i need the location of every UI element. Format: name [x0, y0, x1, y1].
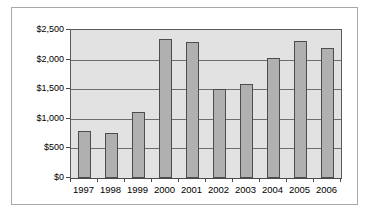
x-axis-tickmark	[232, 178, 233, 182]
bar	[78, 131, 91, 178]
x-axis-tickmark	[286, 178, 287, 182]
bar	[213, 89, 226, 178]
x-axis-tick-label: 2006	[313, 184, 340, 196]
y-axis-tick-label: $1,000	[36, 114, 64, 123]
x-axis-tickmark	[70, 178, 71, 182]
x-axis-tickmark	[259, 178, 260, 182]
bar	[294, 41, 307, 178]
x-axis-tickmark	[97, 178, 98, 182]
y-axis-tick-label: $2,000	[36, 55, 64, 64]
y-axis-tick-label: $1,500	[36, 84, 64, 93]
x-axis-tick-label: 2004	[259, 184, 286, 196]
x-axis-tick-label: 2005	[286, 184, 313, 196]
x-axis-tick-label: 2001	[178, 184, 205, 196]
bar	[132, 112, 145, 178]
x-axis-tickmarks	[70, 178, 342, 183]
y-axis-tick-labels: $0$500$1,000$1,500$2,000$2,500	[12, 29, 64, 179]
bar	[186, 42, 199, 178]
plot-area	[70, 29, 342, 179]
bar	[159, 39, 172, 178]
y-axis-tick-label: $2,500	[36, 25, 64, 34]
bar	[105, 133, 118, 178]
bar	[321, 48, 334, 178]
chart-figure: $0$500$1,000$1,500$2,000$2,500 199719981…	[11, 7, 358, 205]
x-axis-tickmark	[313, 178, 314, 182]
x-axis-tick-label: 2003	[232, 184, 259, 196]
y-axis-tick-label: $500	[44, 143, 64, 152]
bar	[240, 84, 253, 178]
y-axis-tick-label: $0	[54, 173, 64, 182]
x-axis-tick-labels: 1997199819992000200120022003200420052006	[70, 184, 342, 198]
x-axis-tickmark	[178, 178, 179, 182]
x-axis-tickmark	[205, 178, 206, 182]
x-axis-tickmark	[340, 178, 341, 182]
x-axis-tick-label: 1999	[124, 184, 151, 196]
x-axis-tick-label: 2002	[205, 184, 232, 196]
x-axis-tick-label: 2000	[151, 184, 178, 196]
x-axis-tick-label: 1998	[97, 184, 124, 196]
x-axis-tickmark	[151, 178, 152, 182]
bar	[267, 58, 280, 178]
x-axis-tick-label: 1997	[70, 184, 97, 196]
x-axis-tickmark	[124, 178, 125, 182]
